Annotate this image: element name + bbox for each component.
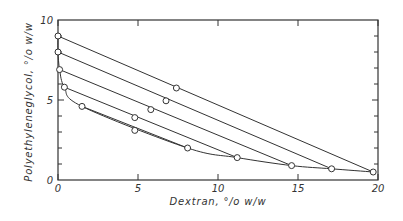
- x-tick-label: 0: [55, 183, 61, 194]
- data-point-marker: [132, 115, 138, 121]
- data-point-marker: [148, 107, 154, 113]
- y-tick-label: 0: [47, 175, 53, 186]
- y-tick-label: 10: [40, 15, 53, 26]
- data-point-marker: [370, 169, 376, 175]
- plot-frame: [58, 20, 378, 180]
- data-point-marker: [55, 49, 61, 55]
- tie-line: [64, 87, 237, 157]
- x-tick-label: 10: [212, 183, 225, 194]
- axis-ticks: [58, 20, 378, 180]
- x-tick-label: 15: [292, 183, 305, 194]
- data-point-marker: [163, 98, 169, 104]
- tie-lines: [58, 36, 373, 172]
- data-point-marker: [57, 67, 63, 73]
- data-point-marker: [185, 145, 191, 151]
- tie-line: [60, 70, 292, 166]
- tie-line: [58, 52, 332, 169]
- y-tick-label: 5: [47, 95, 53, 106]
- data-point-marker: [79, 103, 85, 109]
- y-axis-label: Polyethyleneglycol, °/o w/w: [23, 22, 34, 181]
- x-tick-label: 20: [372, 183, 385, 194]
- data-point-marker: [234, 155, 240, 161]
- x-tick-label: 5: [135, 183, 141, 194]
- data-point-marker: [289, 163, 295, 169]
- phase-diagram-chart: 051015200510 Dextran, °/o w/w Polyethyle…: [0, 0, 403, 221]
- data-point-marker: [55, 33, 61, 39]
- data-point-marker: [173, 85, 179, 91]
- data-point-marker: [61, 84, 67, 90]
- x-axis-label: Dextran, °/o w/w: [170, 196, 267, 207]
- data-point-marker: [132, 127, 138, 133]
- data-point-marker: [329, 166, 335, 172]
